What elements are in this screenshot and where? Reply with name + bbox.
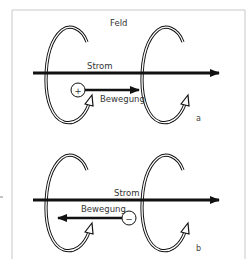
- physics-diagram: Feld Strom + Bewegung a: [0, 0, 251, 259]
- motion-label: Bewegung: [100, 94, 145, 104]
- field-loop-right-b: [142, 155, 185, 250]
- field-arrowhead-icon: [181, 223, 189, 234]
- motion-label: Bewegung: [81, 204, 126, 214]
- current-label: Strom: [87, 61, 113, 71]
- field-loop-left-b: [46, 155, 89, 250]
- field-arrowhead-icon: [85, 95, 93, 106]
- panel-a: Feld Strom + Bewegung a: [33, 18, 219, 123]
- current-label: Strom: [114, 188, 140, 198]
- svg-text:+: +: [74, 86, 81, 96]
- svg-text:−: −: [125, 214, 132, 224]
- field-loop-left-a: [46, 27, 89, 122]
- field-arrowhead-icon: [85, 223, 93, 234]
- field-label: Feld: [110, 18, 127, 28]
- field-loop-right-a: [142, 27, 185, 122]
- panel-b: Strom − Bewegung b: [33, 155, 219, 253]
- field-arrowhead-icon: [181, 95, 189, 106]
- positive-charge: +: [71, 83, 85, 97]
- panel-label-a: a: [196, 114, 201, 123]
- panel-label-b: b: [196, 244, 201, 253]
